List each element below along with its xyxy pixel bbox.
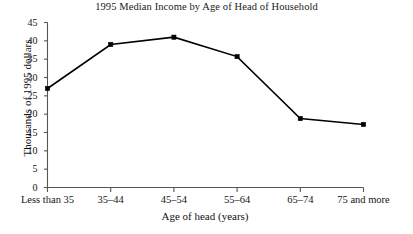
- y-tick-label: 15: [16, 128, 38, 138]
- y-tick-label: 25: [16, 91, 38, 101]
- x-tick-label: 75 and more: [304, 194, 413, 205]
- y-tick-label: 30: [16, 73, 38, 83]
- x-axis-ticks: [48, 188, 364, 193]
- y-tick-label: 40: [16, 36, 38, 46]
- y-tick-label: 10: [16, 146, 38, 156]
- data-markers: [45, 35, 365, 126]
- data-line: [48, 37, 364, 124]
- y-tick-label: 0: [16, 183, 38, 193]
- y-tick-label: 45: [16, 18, 38, 28]
- y-tick-label: 20: [16, 109, 38, 119]
- y-tick-label: 5: [16, 164, 38, 174]
- y-tick-label: 35: [16, 54, 38, 64]
- chart-figure: 1995 Median Income by Age of Head of Hou…: [0, 0, 413, 234]
